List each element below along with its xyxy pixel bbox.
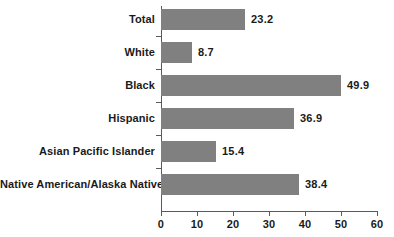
y-tick	[156, 69, 161, 70]
y-tick	[156, 168, 161, 169]
x-tick	[269, 211, 270, 216]
x-tick-label: 10	[191, 218, 204, 230]
x-tick	[161, 211, 162, 216]
x-tick	[233, 211, 234, 216]
bar-value-label: 49.9	[347, 79, 369, 91]
category-label: Native American/Alaska Native	[0, 178, 155, 190]
x-tick-label: 60	[371, 218, 384, 230]
x-tick-label: 50	[335, 218, 348, 230]
bar	[161, 9, 245, 30]
bar-value-label: 36.9	[300, 112, 322, 124]
bar	[161, 174, 299, 195]
bar-rect	[161, 141, 216, 162]
x-tick	[377, 211, 378, 216]
x-tick	[341, 211, 342, 216]
bar-value-label: 8.7	[198, 46, 214, 58]
category-label: White	[0, 46, 155, 58]
bar-value-label: 15.4	[222, 145, 244, 157]
y-tick	[156, 135, 161, 136]
category-label: Asian Pacific Islander	[0, 145, 155, 157]
y-tick	[156, 36, 161, 37]
x-tick-label: 20	[227, 218, 240, 230]
y-tick	[156, 102, 161, 103]
x-tick-label: 30	[263, 218, 276, 230]
bar-value-label: 23.2	[251, 13, 273, 25]
bar-rect	[161, 108, 294, 129]
bar	[161, 141, 216, 162]
bar	[161, 42, 192, 63]
bar-value-label: 38.4	[305, 178, 327, 190]
bar	[161, 108, 294, 129]
x-tick	[305, 211, 306, 216]
bar-rect	[161, 75, 341, 96]
category-label: Total	[0, 13, 155, 25]
category-label: Hispanic	[0, 112, 155, 124]
bar-chart: Total23.2White8.7Black49.9Hispanic36.9As…	[0, 0, 394, 237]
bar-rect	[161, 174, 299, 195]
bar	[161, 75, 341, 96]
bar-rect	[161, 9, 245, 30]
x-tick-label: 40	[299, 218, 312, 230]
bar-rect	[161, 42, 192, 63]
category-label: Black	[0, 79, 155, 91]
x-tick	[197, 211, 198, 216]
x-tick-label: 0	[158, 218, 164, 230]
